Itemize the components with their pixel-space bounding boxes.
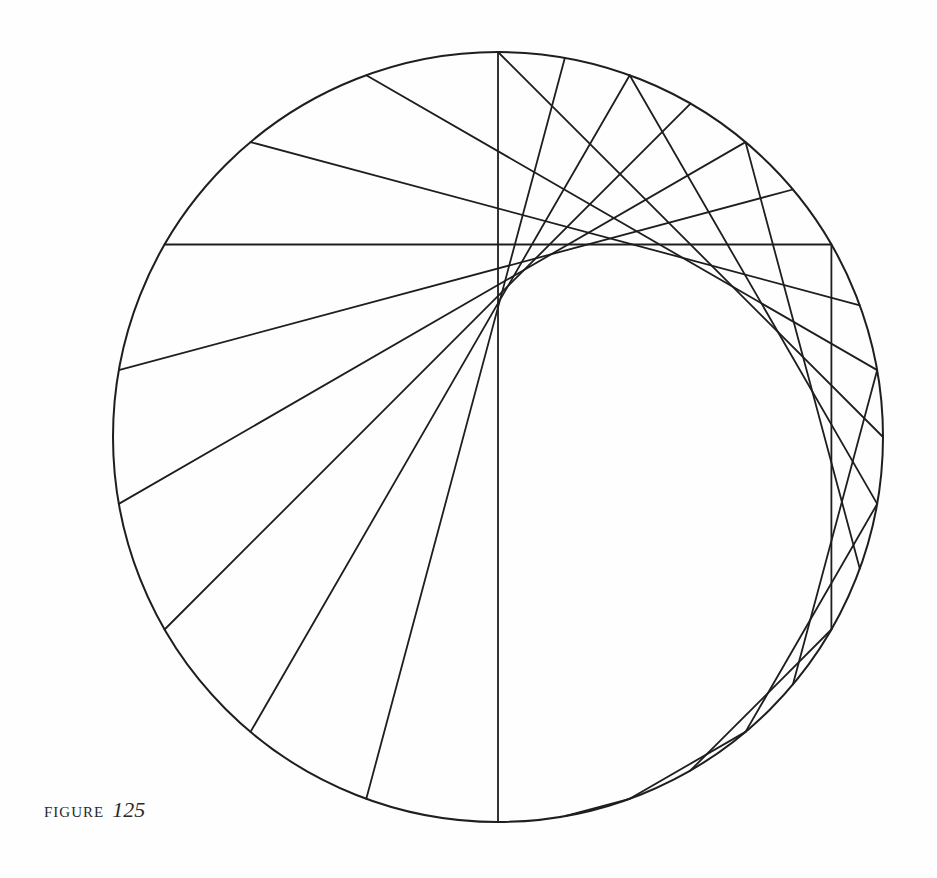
chord-line: [165, 104, 691, 630]
chord-line: [366, 58, 565, 799]
caption-number: 125: [112, 797, 145, 822]
caption-label: FIGURE: [44, 798, 104, 822]
chord-lines: [119, 52, 883, 822]
figure-diagram: [0, 0, 937, 878]
figure-caption: FIGURE125: [44, 797, 145, 823]
chord-line: [630, 732, 746, 799]
chord-line: [119, 142, 746, 504]
chord-line: [251, 142, 860, 305]
chord-line: [691, 630, 832, 771]
chord-line: [630, 75, 878, 504]
chord-line: [251, 75, 630, 732]
chord-line: [119, 190, 793, 371]
chord-line: [746, 142, 860, 569]
chord-line: [366, 75, 877, 370]
chord-line: [746, 504, 878, 732]
